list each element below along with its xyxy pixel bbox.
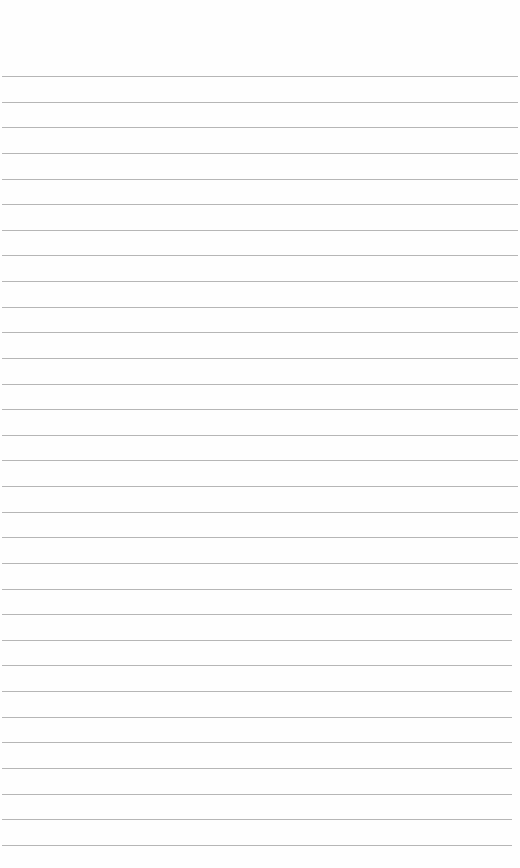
ruled-line (2, 179, 518, 180)
ruled-line (2, 819, 512, 820)
ruled-line (2, 460, 518, 461)
ruled-line (2, 691, 512, 692)
ruled-line (2, 409, 518, 410)
ruled-line (2, 281, 518, 282)
ruled-line (2, 255, 518, 256)
ruled-line (2, 486, 518, 487)
ruled-line (2, 640, 512, 641)
ruled-line (2, 435, 518, 436)
ruled-line (2, 794, 512, 795)
ruled-line (2, 589, 512, 590)
ruled-line (2, 768, 512, 769)
ruled-line (2, 102, 518, 103)
ruled-line (2, 742, 512, 743)
ruled-line (2, 153, 518, 154)
ruled-line (2, 384, 518, 385)
ruled-line (2, 563, 518, 564)
ruled-line (2, 614, 512, 615)
ruled-line (2, 512, 518, 513)
ruled-line (2, 230, 518, 231)
ruled-line (2, 76, 518, 77)
ruled-line (2, 845, 512, 846)
ruled-line (2, 332, 518, 333)
ruled-line (2, 717, 512, 718)
ruled-line (2, 537, 518, 538)
ruled-line (2, 204, 518, 205)
lined-paper-page (0, 0, 520, 868)
ruled-line (2, 307, 518, 308)
ruled-line (2, 358, 518, 359)
ruled-line (2, 665, 512, 666)
ruled-line (2, 127, 518, 128)
